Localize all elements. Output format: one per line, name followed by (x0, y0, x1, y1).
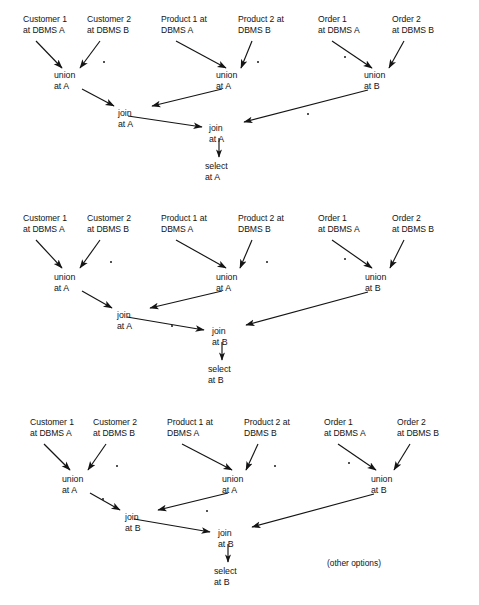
leaf-order1-d2: Order 1 at DBMS A (318, 213, 360, 234)
op-line1: join (212, 326, 226, 336)
op-join-left-d3: join at B (125, 512, 140, 533)
op-line1: select (214, 566, 237, 576)
speck (344, 56, 346, 58)
leaf-customer2-d2: Customer 2 at DBMS B (87, 213, 131, 234)
leaf-line2: at DBMS B (87, 25, 131, 36)
leaf-line1: Product 1 at (167, 417, 213, 427)
leaf-line2: at DBMS A (318, 224, 360, 235)
op-line2: at B (212, 337, 227, 348)
op-line2: at B (364, 81, 385, 92)
leaf-line1: Order 1 (324, 417, 353, 427)
leaf-customer2-d1: Customer 2 at DBMS B (87, 14, 131, 35)
op-line1: union (216, 70, 237, 80)
op-select-d1: select at A (205, 161, 228, 182)
op-line1: select (208, 364, 231, 374)
leaf-line2: DBMS B (238, 25, 284, 36)
op-union-mid-d3: union at A (222, 474, 243, 495)
op-union-right-d3: union at B (371, 474, 392, 495)
leaf-line2: DBMS A (161, 25, 207, 36)
leaf-order1-d1: Order 1 at DBMS A (318, 14, 360, 35)
leaf-line1: Customer 2 (87, 213, 131, 223)
speck (348, 462, 350, 464)
op-line1: join (118, 108, 132, 118)
op-select-d3: select at B (214, 566, 237, 587)
cropped-top-text (0, 0, 479, 9)
leaf-order2-d3: Order 2 at DBMS B (397, 417, 439, 438)
leaf-line1: Product 2 at (238, 14, 284, 24)
leaf-customer1-d2: Customer 1 at DBMS A (23, 213, 67, 234)
leaf-line2: DBMS B (244, 428, 290, 439)
op-join-left-d1: join at A (118, 108, 133, 129)
speck (171, 325, 173, 327)
op-join-left-d2: join at A (117, 310, 132, 331)
op-line2: at A (222, 485, 243, 496)
leaf-order1-d3: Order 1 at DBMS A (324, 417, 366, 438)
leaf-product1-d1: Product 1 at DBMS A (161, 14, 207, 35)
leaf-line1: Order 1 (318, 14, 347, 24)
leaf-line2: at DBMS A (23, 25, 67, 36)
op-line2: at B (371, 485, 392, 496)
leaf-line2: at DBMS B (93, 428, 137, 439)
leaf-order2-d1: Order 2 at DBMS B (392, 14, 434, 35)
op-line2: at A (118, 119, 133, 130)
op-line1: select (205, 161, 228, 171)
leaf-line2: DBMS A (167, 428, 213, 439)
speck (344, 258, 346, 260)
leaf-order2-d2: Order 2 at DBMS B (392, 213, 434, 234)
leaf-line1: Product 1 at (161, 213, 207, 223)
op-line1: join (218, 528, 232, 538)
leaf-line2: at DBMS A (30, 428, 74, 439)
speck (110, 261, 112, 263)
leaf-line1: Customer 1 (30, 417, 74, 427)
op-join-root-d1: join at A (209, 123, 224, 144)
op-line2: at B (365, 283, 386, 294)
leaf-product2-d1: Product 2 at DBMS B (238, 14, 284, 35)
leaf-line1: Order 2 (392, 213, 421, 223)
op-line2: at A (216, 81, 237, 92)
op-join-root-d2: join at B (212, 326, 227, 347)
leaf-line2: at DBMS B (397, 428, 439, 439)
leaf-customer2-d3: Customer 2 at DBMS B (93, 417, 137, 438)
leaf-line1: Product 2 at (238, 213, 284, 223)
leaf-line2: at DBMS B (392, 224, 434, 235)
leaf-line1: Customer 1 (23, 213, 67, 223)
speck (274, 465, 276, 467)
leaf-line2: at DBMS A (23, 224, 67, 235)
leaf-product2-d2: Product 2 at DBMS B (238, 213, 284, 234)
op-line1: union (62, 474, 83, 484)
speck (102, 498, 104, 500)
op-line2: at B (125, 523, 140, 534)
op-line2: at A (205, 172, 228, 183)
leaf-line2: DBMS A (161, 224, 207, 235)
op-line1: join (117, 310, 131, 320)
leaf-line1: Product 2 at (244, 417, 290, 427)
op-line2: at B (214, 577, 237, 588)
op-line2: at A (209, 134, 224, 145)
leaf-line1: Order 1 (318, 213, 347, 223)
op-line2: at A (54, 81, 75, 92)
op-line1: union (54, 272, 75, 282)
op-line2: at A (54, 283, 75, 294)
other-options-note: (other options) (327, 558, 381, 568)
speck (257, 61, 259, 63)
leaf-product2-d3: Product 2 at DBMS B (244, 417, 290, 438)
op-union-left-d3: union at A (62, 474, 83, 495)
speck (206, 510, 208, 512)
diagram-canvas: Customer 1 at DBMS A Customer 2 at DBMS … (0, 0, 479, 605)
leaf-line2: at DBMS A (324, 428, 366, 439)
leaf-line1: Order 2 (392, 14, 421, 24)
op-line1: union (365, 272, 386, 282)
leaf-product1-d2: Product 1 at DBMS A (161, 213, 207, 234)
op-union-mid-d1: union at A (216, 70, 237, 91)
op-union-left-d1: union at A (54, 70, 75, 91)
speck (307, 113, 309, 115)
leaf-line2: at DBMS B (87, 224, 131, 235)
op-line2: at B (218, 539, 233, 550)
leaf-line2: at DBMS A (318, 25, 360, 36)
op-union-right-d2: union at B (365, 272, 386, 293)
op-select-d2: select at B (208, 364, 231, 385)
speck (266, 261, 268, 263)
leaf-line2: at DBMS B (392, 25, 434, 36)
speck (103, 61, 105, 63)
op-line1: union (54, 70, 75, 80)
